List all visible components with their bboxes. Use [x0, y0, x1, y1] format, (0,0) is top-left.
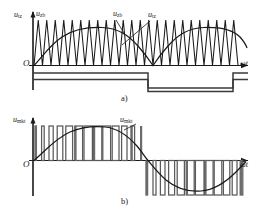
panel-a-group	[29, 11, 248, 92]
label-carrier-mid-a: utz	[148, 11, 156, 20]
panel-b-y-axis-arrowhead	[31, 117, 36, 124]
polarity-square-wave-a	[33, 73, 248, 88]
panel-b-x-axis-label: ωt	[240, 161, 248, 169]
panel-b-caption: b)	[121, 197, 128, 206]
polarity-square-wave-a-lower	[33, 80, 248, 92]
waveform-canvas	[0, 0, 261, 216]
spwm-waveform-figure: utz uzb uzb utz O ωt a) umkt umkt O ωt b…	[0, 0, 261, 216]
panel-a-x-axis-label: ωt	[240, 60, 248, 68]
label-carrier-left-a: utz	[14, 11, 22, 20]
pwm-pulses-negative	[146, 161, 243, 196]
label-output-left-b: umkt	[13, 116, 25, 125]
panel-b-group	[29, 117, 248, 196]
panel-a-origin-label: O	[23, 59, 30, 68]
leader-line-utz-a	[122, 21, 150, 45]
panel-a-y-axis-arrowhead	[31, 11, 36, 18]
pwm-pulses-positive-accents	[35, 126, 142, 161]
label-modulator-left-a: uzb	[36, 10, 45, 19]
label-modulator-mid-a: uzb	[113, 10, 122, 19]
panel-b-origin-label: O	[23, 160, 30, 169]
panel-a-caption: a)	[121, 94, 128, 103]
label-output-mid-b: umkt	[120, 116, 132, 125]
